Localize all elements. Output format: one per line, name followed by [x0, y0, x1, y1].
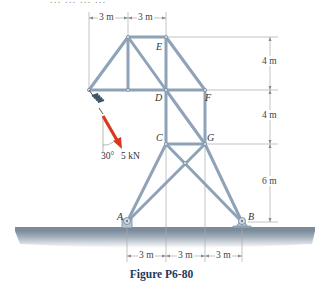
- joint-label-f: F: [205, 92, 211, 103]
- top-dim-1: 3 m: [98, 12, 115, 22]
- ground: [15, 227, 315, 248]
- bottom-dim-1: 3 m: [138, 250, 155, 260]
- support-a: [122, 218, 132, 229]
- spring-cable: [89, 90, 104, 114]
- joint-label-g: G: [207, 132, 214, 143]
- joint-label-d: D: [155, 92, 162, 103]
- right-dim-3: 6 m: [261, 176, 278, 186]
- joint-label-e: E: [156, 41, 162, 52]
- truss-figure: ... ... ... ...: [0, 0, 323, 289]
- figure-caption: Figure P6-80: [0, 268, 323, 280]
- joint-label-a: A: [117, 211, 123, 222]
- load-angle-label: 30°: [101, 151, 114, 161]
- bottom-dim-3: 3 m: [215, 250, 232, 260]
- joint-label-c: C: [156, 132, 163, 143]
- right-dim-1: 4 m: [261, 56, 278, 66]
- bottom-dim-2: 3 m: [177, 250, 194, 260]
- load-arrow: [103, 116, 122, 152]
- load-magnitude-label: 5 kN: [121, 151, 140, 161]
- top-dim-2: 3 m: [137, 12, 154, 22]
- joint-label-b: B: [248, 211, 254, 222]
- right-dim-2: 4 m: [261, 110, 278, 120]
